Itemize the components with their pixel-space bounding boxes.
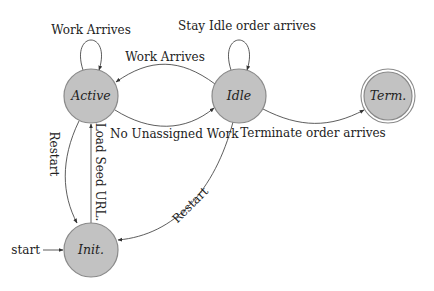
state-init[interactable]: Init.: [64, 223, 118, 277]
edge-label-active-idle: No Unassigned Work: [110, 127, 239, 141]
state-active[interactable]: Active: [64, 69, 118, 123]
edge-label-init-active: Load Seed URL.: [93, 123, 107, 222]
edge-init-to-active: Load Seed URL.: [91, 123, 107, 223]
edge-label-idle-term: Terminate order arrives: [240, 126, 386, 140]
edge-label-idle-active: Work Arrives: [125, 50, 205, 64]
state-label-idle: Idle: [226, 88, 251, 103]
start-arrow: start: [11, 243, 63, 257]
state-label-term: Term.: [370, 88, 407, 103]
edge-active-to-init: Restart: [47, 121, 79, 223]
state-term[interactable]: Term.: [361, 69, 415, 123]
state-label-active: Active: [70, 88, 111, 103]
state-diagram: Work Arrives Stay Idle order arrives Wor…: [0, 0, 434, 291]
edge-label-active-self: Work Arrives: [51, 23, 131, 37]
state-label-init: Init.: [77, 242, 104, 257]
state-idle[interactable]: Idle: [212, 69, 266, 123]
edge-active-self-loop: Work Arrives: [51, 23, 131, 70]
edge-label-active-init: Restart: [47, 132, 61, 177]
edge-label-idle-init: Restart: [169, 184, 211, 226]
edge-label-idle-self: Stay Idle order arrives: [178, 19, 316, 33]
edge-idle-to-active: Work Arrives: [116, 50, 215, 84]
edge-idle-to-term: Terminate order arrives: [240, 109, 386, 140]
start-label: start: [11, 243, 40, 257]
